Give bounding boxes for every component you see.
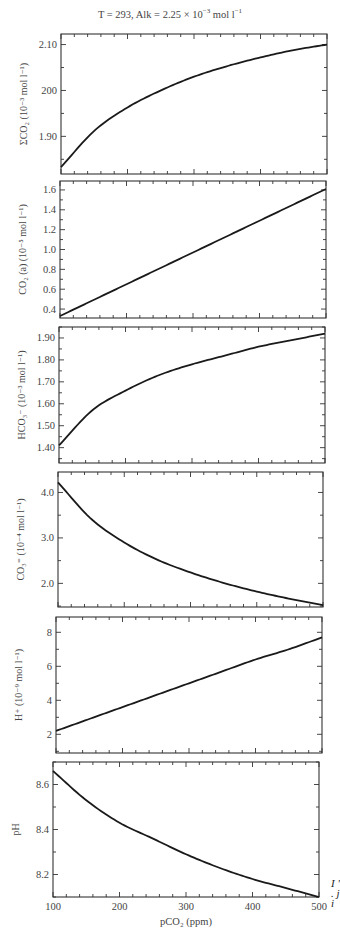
panel-total-co2: 1.902002.10ΣCO₂ (10⁻³ mol l⁻¹) <box>18 34 327 174</box>
y-axis-label: HCO₃⁻ (10⁻³ mol l⁻¹) <box>16 351 28 440</box>
x-tick-label: 400 <box>245 901 261 912</box>
y-tick-label: 1.90 <box>37 332 55 343</box>
panel-dissolved-co2: 0.40.60.81.01.21.41.6CO₂ (a) (10⁻⁵ mol l… <box>17 181 326 318</box>
y-tick-label: 0.8 <box>43 264 56 275</box>
y-tick-label: 1.90 <box>39 131 57 142</box>
y-tick-label: 2 <box>47 729 52 740</box>
y-tick-label: 4.0 <box>41 487 54 498</box>
data-line <box>59 334 325 446</box>
panel-bicarbonate: 1.401.501.601.701.801.90HCO₃⁻ (10⁻³ mol … <box>16 327 325 463</box>
y-axis-label: H⁺ (10⁻⁹ mol l⁻¹) <box>13 649 25 721</box>
y-tick-label: 3.0 <box>41 532 54 543</box>
y-axis-label: pH <box>10 823 21 835</box>
plot-frame <box>61 34 327 174</box>
x-axis-label: pCO₂ (ppm) <box>160 916 212 928</box>
y-tick-label: 8.2 <box>36 869 49 880</box>
y-tick-label: 1.40 <box>37 442 55 453</box>
y-tick-label: 1.50 <box>37 420 55 431</box>
y-tick-label: 8.4 <box>36 824 50 835</box>
y-tick-label: 200 <box>41 85 57 96</box>
chart-figure: 1.902002.10ΣCO₂ (10⁻³ mol l⁻¹)0.40.60.81… <box>0 0 340 943</box>
plot-frame <box>59 327 325 463</box>
panel-carbonate: 2.03.04.0CO₃⁼ (10⁻⁴ mol l⁻¹) <box>15 472 323 607</box>
y-axis-label: CO₃⁼ (10⁻⁴ mol l⁻¹) <box>15 498 27 580</box>
x-tick-label: 500 <box>311 901 327 912</box>
y-tick-label: 1.2 <box>43 224 56 235</box>
y-axis-label: CO₂ (a) (10⁻⁵ mol l⁻¹) <box>17 204 29 295</box>
y-tick-label: 1.0 <box>43 244 56 255</box>
y-axis-label: ΣCO₂ (10⁻³ mol l⁻¹) <box>18 63 30 145</box>
x-tick-label: 100 <box>45 901 61 912</box>
y-tick-label: 0.6 <box>43 284 56 295</box>
y-tick-label: 6 <box>47 661 52 672</box>
cropped-caption-fragment: I ' . j i <box>331 878 340 908</box>
y-tick-label: 1.6 <box>43 184 56 195</box>
y-tick-label: 1.60 <box>37 398 55 409</box>
y-tick-label: 2.10 <box>39 39 57 50</box>
y-tick-label: 0.4 <box>43 304 57 315</box>
plot-frame <box>56 617 322 753</box>
y-tick-label: 4 <box>47 695 53 706</box>
panel-ph: 8.28.48.6pH100200300400500pCO₂ (ppm) <box>10 762 327 928</box>
plot-frame <box>58 472 323 607</box>
plot-frame <box>53 762 319 897</box>
x-tick-label: 300 <box>178 901 194 912</box>
y-tick-label: 1.4 <box>43 204 57 215</box>
data-line <box>53 771 319 897</box>
data-line <box>56 637 322 731</box>
y-tick-label: 2.0 <box>41 578 54 589</box>
y-tick-label: 1.70 <box>37 376 55 387</box>
y-tick-label: 8 <box>47 627 52 638</box>
y-tick-label: 1.80 <box>37 354 55 365</box>
data-line <box>60 189 326 316</box>
y-tick-label: 8.6 <box>36 779 49 790</box>
x-tick-label: 200 <box>112 901 128 912</box>
panel-hydrogen-ion: 2468H⁺ (10⁻⁹ mol l⁻¹) <box>13 617 322 753</box>
data-line <box>61 45 327 168</box>
data-line <box>58 482 323 605</box>
